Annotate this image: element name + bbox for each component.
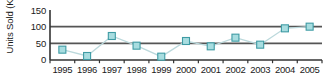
y-tick-label-150: 150 — [20, 6, 46, 16]
y-tick-label-100: 100 — [20, 22, 46, 32]
plot-area — [50, 10, 322, 60]
data-point-marker — [306, 23, 313, 30]
data-point-marker — [232, 34, 239, 41]
data-point-marker — [207, 43, 214, 50]
data-point-marker — [108, 33, 115, 40]
data-point-marker — [133, 42, 140, 49]
data-point-marker — [281, 25, 288, 32]
y-tick-label-50: 50 — [20, 39, 46, 49]
plot-svg — [50, 10, 322, 60]
x-tick-label-2005: 2005 — [293, 64, 327, 75]
y-tick-label-0: 0 — [20, 55, 46, 65]
line-chart: Units Sold (K) 150 100 50 0 199519961997… — [0, 0, 328, 83]
x-axis-tick-labels: 1995199619971998199920002001200220032004… — [50, 64, 322, 78]
data-point-marker — [158, 53, 165, 60]
data-point-marker — [59, 46, 66, 53]
data-markers — [59, 23, 313, 60]
y-axis-title: Units Sold (K) — [4, 0, 16, 56]
data-point-marker — [257, 41, 264, 48]
data-point-marker — [183, 38, 190, 45]
data-point-marker — [84, 53, 91, 60]
y-axis-tick-labels: 150 100 50 0 — [18, 0, 46, 83]
